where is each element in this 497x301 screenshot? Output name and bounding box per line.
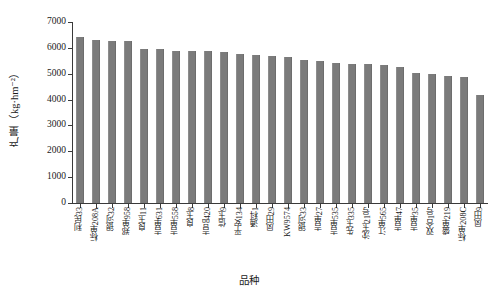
y-axis-tick-label: 4000	[47, 95, 66, 105]
y-axis-title-text: 产量（kg·hm⁻²）	[10, 67, 21, 147]
bar-series	[72, 22, 488, 203]
y-axis-tick-label: 5000	[47, 69, 66, 79]
y-axis-tick-label: 2000	[47, 147, 66, 157]
x-axis-tick-label: 吉单558	[172, 207, 180, 235]
bar	[236, 54, 243, 203]
bar	[124, 41, 131, 203]
plot-area	[72, 22, 488, 203]
y-axis-tick-label: 1000	[47, 172, 66, 182]
y-axis-tick-label: 3000	[47, 121, 66, 131]
y-axis-tick-labels: 01000200030004000500060007000	[30, 0, 70, 215]
x-axis-tick-label: 标单208A	[92, 207, 100, 241]
bar	[76, 37, 83, 203]
bar	[172, 51, 179, 203]
bar	[316, 61, 323, 203]
x-axis-title-text: 品种	[239, 275, 259, 286]
bar	[396, 67, 403, 203]
x-axis-tick-label: 江单565	[380, 207, 388, 235]
x-axis-tick-label: 吉单35	[412, 207, 420, 231]
x-axis-tick-label: 吉单535	[332, 207, 340, 235]
bar	[412, 73, 419, 203]
bar	[188, 51, 195, 203]
y-axis-tick-label: 6000	[47, 43, 66, 53]
x-axis-tick-label: 良玉11	[140, 207, 148, 231]
y-axis-tick-mark	[68, 22, 72, 23]
bar	[364, 64, 371, 203]
bar	[204, 51, 211, 203]
bar	[268, 56, 275, 203]
x-axis-tick-label: 郑单958	[124, 207, 132, 235]
x-axis-tick-label: 双合1号	[428, 207, 436, 235]
y-axis-tick-mark	[68, 48, 72, 49]
bar	[460, 77, 467, 203]
bar	[284, 57, 291, 203]
bar	[300, 60, 307, 203]
bar	[380, 65, 387, 203]
bar	[156, 49, 163, 203]
chart-figure: 产量（kg·hm⁻²） 0100020003000400050006000700…	[0, 0, 497, 301]
y-axis-title: 产量（kg·hm⁻²）	[0, 0, 30, 215]
x-axis-line	[72, 203, 488, 204]
bar	[332, 63, 339, 203]
y-axis-tick-mark	[68, 74, 72, 75]
x-axis-tick-label: 通科1	[252, 207, 260, 227]
x-axis-tick-label: 吉品420	[204, 207, 212, 235]
bar	[444, 76, 451, 203]
x-axis-tick-label: 凤田29	[268, 207, 276, 231]
bar	[220, 52, 227, 203]
bar	[108, 41, 115, 204]
y-axis-tick-mark	[68, 177, 72, 178]
x-axis-tick-label: 凤田9	[476, 207, 484, 227]
x-axis-tick-label: 标单208C	[460, 207, 468, 241]
y-axis-tick-label: 0	[61, 198, 66, 208]
y-axis-tick-mark	[68, 100, 72, 101]
x-axis-tick-label: KW9574	[284, 207, 292, 237]
x-axis-tick-label: 平安134	[236, 207, 244, 235]
x-axis-tick-labels: 利民33标单208A银河32郑单958良玉11吉单631吉单558良玉8吉品42…	[72, 207, 488, 275]
bar	[348, 64, 355, 203]
y-axis-tick-label: 7000	[47, 17, 66, 27]
x-axis-tick-label: 先玉335	[348, 207, 356, 235]
x-axis-tick-label: 吉单27	[316, 207, 324, 231]
x-axis-tick-label: 银河33	[300, 207, 308, 231]
bar	[428, 74, 435, 203]
x-axis-tick-label: 利民33	[76, 207, 84, 231]
x-axis-tick-label: 沈玉21号	[364, 207, 372, 239]
y-axis-tick-mark	[68, 151, 72, 152]
bar	[252, 55, 259, 203]
x-axis-tick-label: 信玉9	[220, 207, 228, 227]
y-axis-tick-mark	[68, 125, 72, 126]
x-axis-tick-label: 良玉8	[188, 207, 196, 227]
y-axis-tick-mark	[68, 203, 72, 204]
x-axis-tick-label: 吉单631	[156, 207, 164, 235]
bar	[92, 40, 99, 203]
bar	[140, 49, 147, 203]
x-axis-tick-label: 盛单219	[444, 207, 452, 235]
x-axis-tick-label: 银河32	[108, 207, 116, 231]
x-axis-title: 品种	[0, 276, 497, 287]
bar	[476, 95, 483, 203]
x-axis-tick-label: 吉单47	[396, 207, 404, 231]
